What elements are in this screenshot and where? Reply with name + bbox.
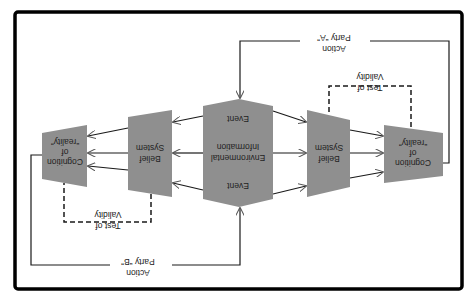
validity-left-line2: Validity — [94, 210, 122, 220]
cognition-right-line3: “reality” — [399, 138, 428, 148]
env-info-line2: Information — [216, 142, 259, 152]
action-a-line2: Party “A” — [317, 33, 351, 43]
env-event-top: Event — [227, 114, 249, 124]
cognition-left-line1: Cognition — [47, 157, 83, 167]
cognition-right-line2: of — [409, 148, 417, 158]
validity-left-line1: Test of — [95, 221, 121, 231]
belief-right-line1: Belief — [318, 154, 340, 164]
diagram-canvas: Event Information Environmental Event Sy… — [0, 0, 474, 301]
action-b-line2: Party “B” — [121, 257, 155, 267]
action-b-line1: Action — [126, 268, 150, 278]
validity-right-line2: Validity — [356, 72, 384, 82]
cognition-right-line1: Cognition — [395, 158, 431, 168]
env-info-line1: Environmental — [211, 153, 265, 163]
belief-right-line2: System — [315, 143, 343, 153]
belief-left-line2: System — [136, 143, 164, 153]
action-a-line1: Action — [322, 44, 346, 54]
belief-left-line1: Belief — [139, 154, 161, 164]
cognition-left-line2: of — [61, 147, 69, 157]
validity-right-line1: Test of — [357, 83, 383, 93]
cognition-left-line3: “reality” — [51, 137, 80, 147]
env-event-bottom: Event — [227, 181, 249, 191]
